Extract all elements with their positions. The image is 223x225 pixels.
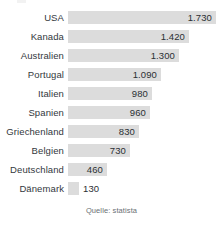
bar-value-label: 1.420 [161, 30, 185, 43]
crop-artifact [17, 0, 26, 3]
bar-row: Dänemark 130 [0, 182, 223, 195]
bar-fill: 960 [68, 106, 150, 119]
bar-chart: USA 1.730 Kanada 1.420 Australien 1.300 [0, 0, 223, 225]
bar-category-label: Kanada [0, 30, 64, 43]
bar-fill: 130 [68, 182, 79, 195]
bar-track: 1.300 [68, 49, 179, 62]
bar-fill: 730 [68, 144, 130, 157]
bar-row: USA 1.730 [0, 11, 223, 24]
bar-value-label: 960 [130, 106, 146, 119]
bar-list: USA 1.730 Kanada 1.420 Australien 1.300 [0, 11, 223, 201]
bar-row: Italien 980 [0, 87, 223, 100]
bar-track: 1.090 [68, 68, 161, 81]
bar-value-label: 1.090 [133, 68, 157, 81]
bar-category-label: Italien [0, 87, 64, 100]
bar-value-label: 980 [132, 87, 148, 100]
bar-value-label: 1.730 [188, 11, 212, 24]
bar-fill: 1.300 [68, 49, 179, 62]
bar-track: 130 [68, 182, 79, 195]
bar-track: 830 [68, 125, 139, 138]
bar-fill: 1.090 [68, 68, 161, 81]
bar-category-label: Portugal [0, 68, 64, 81]
bar-row: Kanada 1.420 [0, 30, 223, 43]
bar-category-label: Belgien [0, 144, 64, 157]
bar-row: Griechenland 830 [0, 125, 223, 138]
bar-track: 460 [68, 163, 107, 176]
bar-value-label: 130 [79, 182, 99, 195]
bar-category-label: USA [0, 11, 64, 24]
bar-row: Spanien 960 [0, 106, 223, 119]
bar-category-label: Spanien [0, 106, 64, 119]
bar-category-label: Australien [0, 49, 64, 62]
bar-track: 1.730 [68, 11, 216, 24]
bar-track: 960 [68, 106, 150, 119]
bar-row: Belgien 730 [0, 144, 223, 157]
bar-category-label: Deutschland [0, 163, 64, 176]
bar-fill: 1.420 [68, 30, 189, 43]
bar-row: Deutschland 460 [0, 163, 223, 176]
bar-track: 1.420 [68, 30, 189, 43]
bar-track: 730 [68, 144, 130, 157]
bar-value-label: 830 [119, 125, 135, 138]
bar-value-label: 460 [87, 163, 103, 176]
source-attribution: Quelle: statista [0, 206, 223, 215]
bar-fill: 1.730 [68, 11, 216, 24]
bar-fill: 830 [68, 125, 139, 138]
bar-fill: 980 [68, 87, 152, 100]
bar-track: 980 [68, 87, 152, 100]
bar-row: Portugal 1.090 [0, 68, 223, 81]
bar-category-label: Dänemark [0, 182, 64, 195]
bar-category-label: Griechenland [0, 125, 64, 138]
bar-value-label: 730 [110, 144, 126, 157]
bar-fill: 460 [68, 163, 107, 176]
bar-value-label: 1.300 [151, 49, 175, 62]
bar-row: Australien 1.300 [0, 49, 223, 62]
